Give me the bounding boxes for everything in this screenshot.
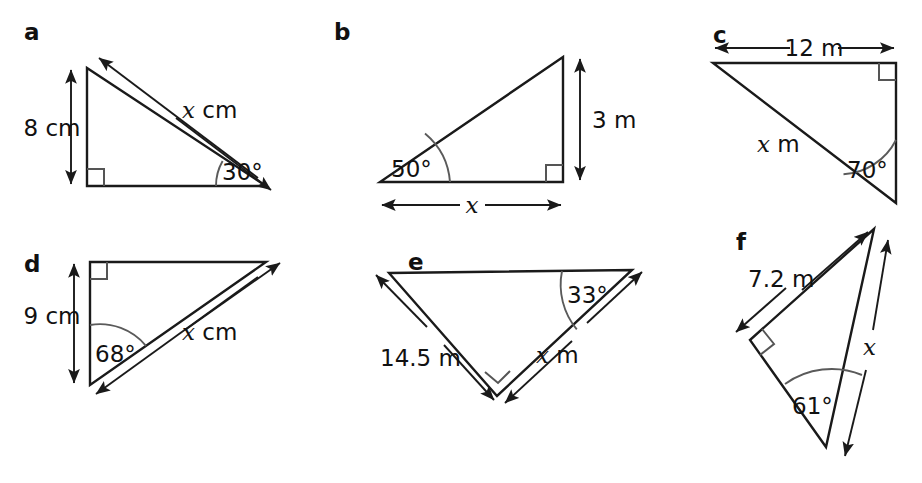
figure-e-letter: e: [408, 249, 424, 275]
figure-f-letter: f: [736, 229, 747, 255]
figure-b-angle-label: 50°: [391, 156, 432, 182]
geometry-figures-canvas: a 8 cm x cm 30° b: [0, 0, 922, 483]
figure-f-unknown-arrow-lower: [845, 370, 866, 456]
figure-c-unknown-unit: m: [777, 131, 799, 157]
figure-a-unknown-label: x cm: [182, 97, 237, 123]
figure-e-angle-label: 33°: [567, 282, 608, 308]
figure-f-angle-arc: [785, 369, 862, 384]
figure-b-unknown-label: x: [466, 192, 479, 218]
figure-d-right-angle-marker: [90, 262, 107, 279]
figure-b-group: b 3 m x 50°: [334, 19, 636, 218]
figure-c-group: c 12 m x m 70°: [713, 22, 896, 203]
figure-a-unknown-symbol: x: [182, 97, 195, 123]
figure-f-group: f 7.2 m x 61°: [736, 229, 888, 456]
figure-c-unknown-label: x m: [757, 131, 800, 157]
figure-f-angle-label: 61°: [792, 393, 833, 419]
figure-f-known-label: 7.2 m: [748, 266, 814, 292]
figure-d-unknown-unit: cm: [202, 319, 237, 345]
figure-a-letter: a: [24, 19, 40, 45]
figure-d-letter: d: [24, 251, 40, 277]
figure-e-unknown-unit: m: [556, 342, 578, 368]
figure-e-unknown-symbol: x: [536, 342, 549, 368]
figure-b-letter: b: [334, 19, 350, 45]
figure-b-unknown-symbol: x: [466, 192, 479, 218]
figure-e-right-angle-marker: [485, 371, 510, 383]
figure-f-unknown-symbol: x: [863, 334, 876, 360]
figure-f-unknown-arrow-upper: [873, 240, 888, 330]
figure-e-group: e 14.5 m x m 33°: [376, 249, 642, 403]
figure-c-letter: c: [713, 22, 727, 48]
figure-d-unknown-label: x cm: [182, 319, 237, 345]
figure-c-known-label: 12 m: [785, 35, 844, 61]
figure-f-right-angle-marker: [760, 329, 774, 355]
figure-c-unknown-symbol: x: [757, 131, 770, 157]
figure-d-group: d 9 cm x cm 68°: [24, 251, 281, 394]
figure-e-known-arrow-upper: [376, 275, 427, 327]
figure-e-known-label: 14.5 m: [380, 345, 461, 371]
figure-b-known-label: 3 m: [592, 107, 636, 133]
figure-a-unknown-unit: cm: [202, 97, 237, 123]
figure-a-angle-label: 30°: [222, 159, 263, 185]
figure-e-unknown-label: x m: [536, 342, 579, 368]
figure-d-unknown-symbol: x: [182, 319, 195, 345]
figure-a-right-angle-marker: [87, 169, 104, 186]
figure-f-unknown-label: x: [863, 334, 876, 360]
figure-c-right-angle-marker: [879, 63, 896, 80]
figure-d-angle-label: 68°: [95, 341, 136, 367]
figure-c-angle-label: 70°: [847, 157, 888, 183]
figure-a-known-label: 8 cm: [24, 115, 81, 141]
figure-f-known-arrow-lower: [736, 288, 786, 332]
figure-d-known-label: 9 cm: [24, 303, 81, 329]
figure-a-group: a 8 cm x cm 30°: [24, 19, 272, 190]
figure-b-right-angle-marker: [546, 165, 563, 182]
worksheet-figure-sheet: a 8 cm x cm 30° b: [0, 0, 922, 483]
